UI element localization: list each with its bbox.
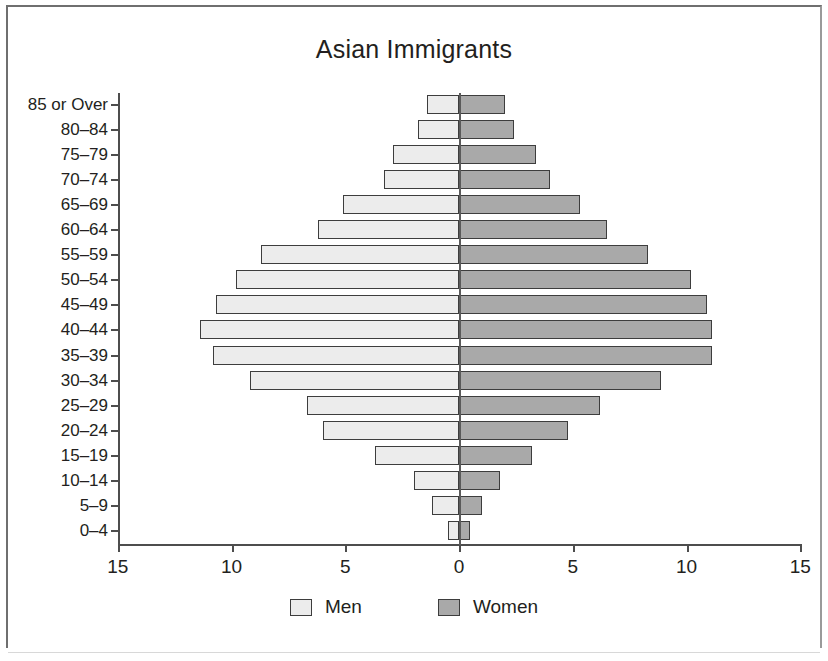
y-axis-label: 10–14 [61, 471, 108, 491]
y-axis-label: 45–49 [61, 295, 108, 315]
x-axis-label: 15 [790, 556, 811, 578]
chart-title: Asian Immigrants [0, 35, 828, 64]
bar-women [459, 471, 500, 490]
y-axis-label: 25–29 [61, 396, 108, 416]
y-axis-tick [111, 380, 118, 382]
bar-women [459, 371, 661, 390]
bar-men [318, 220, 459, 239]
center-zero-line [459, 93, 461, 545]
y-axis-label: 65–69 [61, 195, 108, 215]
bar-men [393, 145, 459, 164]
y-axis-label: 70–74 [61, 170, 108, 190]
y-axis-tick [111, 229, 118, 231]
y-axis-label: 85 or Over [28, 95, 108, 115]
bar-women [459, 195, 580, 214]
bar-men [375, 446, 459, 465]
bar-men [343, 195, 459, 214]
bar-women [459, 396, 600, 415]
y-axis-tick [111, 530, 118, 532]
x-axis-label: 15 [107, 556, 128, 578]
x-axis-label: 5 [567, 556, 578, 578]
y-axis-tick [111, 405, 118, 407]
y-axis-tick [111, 480, 118, 482]
bar-men [384, 170, 459, 189]
y-axis-tick [111, 279, 118, 281]
bar-men [323, 421, 460, 440]
bar-men [261, 245, 459, 264]
bar-women [459, 270, 691, 289]
bar-men [448, 521, 459, 540]
x-axis-tick [118, 544, 120, 552]
bar-women [459, 145, 536, 164]
x-axis-label: 10 [221, 556, 242, 578]
bar-men [216, 295, 459, 314]
y-axis-label: 0–4 [80, 521, 108, 541]
bar-men [427, 95, 459, 114]
y-axis-tick [111, 104, 118, 106]
bar-women [459, 446, 532, 465]
y-axis-tick [111, 254, 118, 256]
y-axis-tick [111, 455, 118, 457]
legend-item-women: Women [438, 596, 538, 618]
bar-men [200, 320, 459, 339]
y-axis-tick [111, 430, 118, 432]
bar-women [459, 421, 568, 440]
y-axis-label: 75–79 [61, 145, 108, 165]
x-axis-tick [345, 544, 347, 552]
y-axis-label: 35–39 [61, 346, 108, 366]
bar-men [236, 270, 459, 289]
population-pyramid-figure: Asian Immigrants 85 or Over80–8475–7970–… [0, 0, 828, 661]
y-axis-tick [111, 179, 118, 181]
bar-women [459, 245, 648, 264]
y-axis-tick [111, 154, 118, 156]
bar-women [459, 95, 505, 114]
bar-men [432, 496, 459, 515]
legend-swatch-women [438, 599, 460, 616]
figure-border-bottom [8, 652, 820, 653]
legend-swatch-men [290, 599, 312, 616]
legend-label-men: Men [325, 596, 362, 618]
y-axis-label: 60–64 [61, 220, 108, 240]
y-axis-label: 55–59 [61, 245, 108, 265]
x-axis-label: 5 [340, 556, 351, 578]
chart-legend: Men Women [0, 596, 828, 618]
y-axis-label: 15–19 [61, 446, 108, 466]
legend-label-women: Women [473, 596, 538, 618]
bar-women [459, 170, 550, 189]
y-axis-label: 30–34 [61, 371, 108, 391]
x-axis-tick [573, 544, 575, 552]
plot-area: 85 or Over80–8475–7970–7465–6960–6455–59… [118, 93, 801, 545]
y-axis-label: 5–9 [80, 496, 108, 516]
bar-women [459, 220, 607, 239]
bar-men [213, 346, 459, 365]
x-axis-tick [800, 544, 802, 552]
y-axis-tick [111, 204, 118, 206]
bar-women [459, 120, 514, 139]
y-axis-label: 40–44 [61, 320, 108, 340]
bar-men [418, 120, 459, 139]
y-axis-tick [111, 129, 118, 131]
y-axis-tick [111, 329, 118, 331]
y-axis-label: 80–84 [61, 120, 108, 140]
bar-women [459, 320, 712, 339]
y-axis-label: 50–54 [61, 270, 108, 290]
x-axis-tick [459, 544, 461, 552]
x-axis-label: 0 [454, 556, 465, 578]
x-axis-label: 10 [676, 556, 697, 578]
bar-women [459, 295, 707, 314]
bar-men [307, 396, 459, 415]
legend-item-men: Men [290, 596, 362, 618]
x-axis-tick [232, 544, 234, 552]
bar-men [250, 371, 459, 390]
y-axis-tick [111, 505, 118, 507]
bar-men [414, 471, 460, 490]
y-axis-tick [111, 304, 118, 306]
x-axis-tick [687, 544, 689, 552]
y-axis-tick [111, 355, 118, 357]
bar-women [459, 346, 712, 365]
y-axis-label: 20–24 [61, 421, 108, 441]
bar-women [459, 496, 482, 515]
